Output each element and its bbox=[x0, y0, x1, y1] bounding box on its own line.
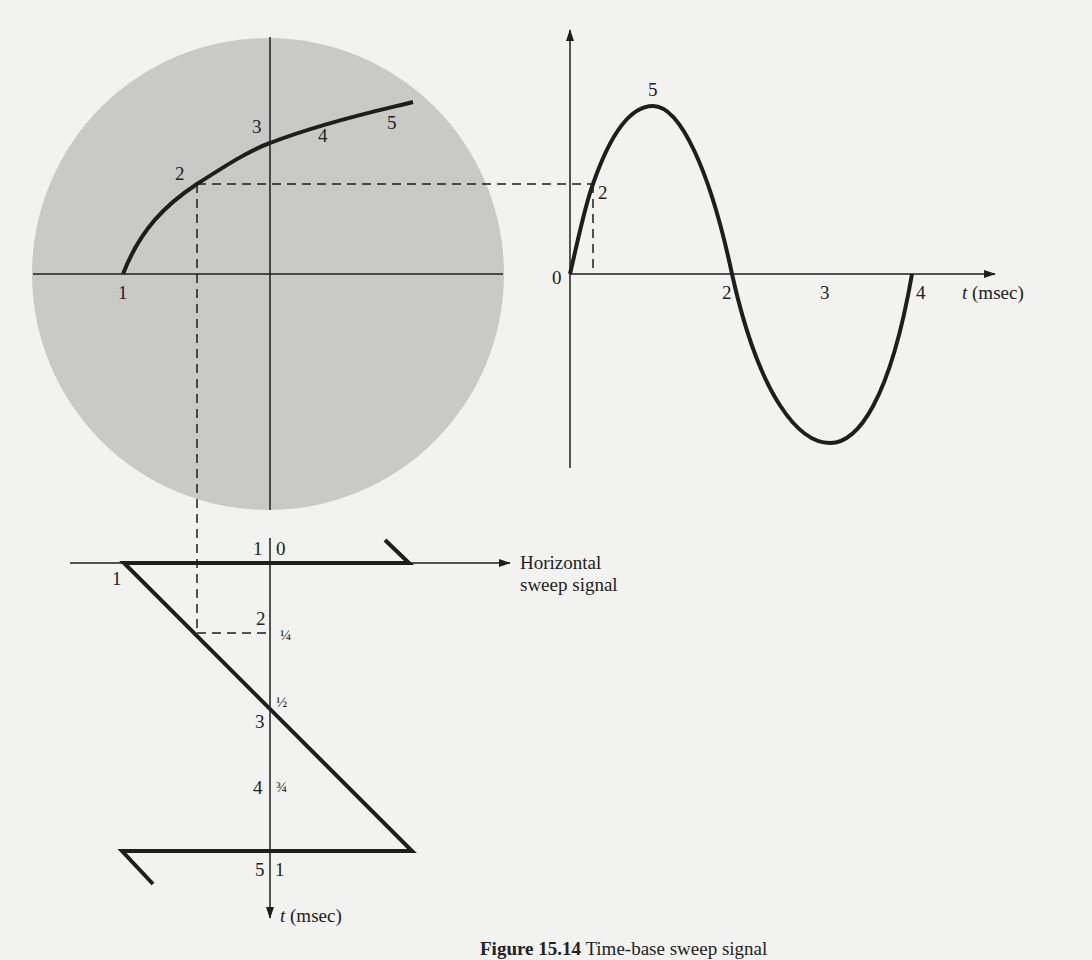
sweep-plot bbox=[70, 538, 510, 918]
screen-label-2: 2 bbox=[175, 163, 185, 184]
sawtooth-signal bbox=[122, 540, 412, 884]
sine-tick-4: 4 bbox=[916, 282, 926, 303]
sine-tick-2: 2 bbox=[722, 282, 732, 303]
sweep-left-label-1b: 1 bbox=[112, 568, 122, 589]
sweep-signal-label-line1: Horizontal bbox=[520, 552, 601, 573]
sine-x-axis-unit: (msec) bbox=[967, 282, 1023, 304]
sweep-time-tick-half: ½ bbox=[276, 694, 287, 710]
sine-plot bbox=[570, 30, 995, 468]
screen-label-5: 5 bbox=[387, 112, 397, 133]
sine-tick-3: 3 bbox=[820, 282, 830, 303]
sweep-signal-label-line2: sweep signal bbox=[520, 574, 618, 595]
sweep-time-tick-quarter: ¼ bbox=[280, 627, 291, 643]
screen-label-1: 1 bbox=[118, 282, 128, 303]
sweep-time-tick-0: 0 bbox=[276, 538, 286, 559]
sweep-left-label-3: 3 bbox=[255, 711, 265, 732]
sine-origin-label: 0 bbox=[552, 267, 562, 288]
sweep-left-label-5: 5 bbox=[255, 859, 265, 880]
sweep-left-label-2: 2 bbox=[256, 608, 266, 629]
screen-label-4: 4 bbox=[318, 125, 328, 146]
sine-x-axis-label: t (msec) bbox=[962, 282, 1024, 304]
figure-caption-text: Time-base sweep signal bbox=[585, 938, 767, 959]
sweep-time-axis-label: t (msec) bbox=[280, 905, 342, 927]
sine-peak-label: 5 bbox=[648, 79, 658, 100]
sweep-time-tick-three-quarter: ¾ bbox=[276, 779, 287, 795]
sweep-left-label-1a: 1 bbox=[253, 538, 263, 559]
figure-caption: Figure 15.14 Time-base sweep signal bbox=[480, 938, 767, 960]
sweep-left-label-4: 4 bbox=[253, 777, 263, 798]
sine-point-label: 2 bbox=[598, 182, 608, 203]
sweep-time-axis-unit: (msec) bbox=[285, 905, 341, 927]
oscilloscope-screen bbox=[32, 37, 504, 510]
screen-label-3: 3 bbox=[252, 116, 262, 137]
figure-caption-label: Figure 15.14 bbox=[480, 938, 581, 959]
sweep-time-tick-1: 1 bbox=[275, 859, 285, 880]
